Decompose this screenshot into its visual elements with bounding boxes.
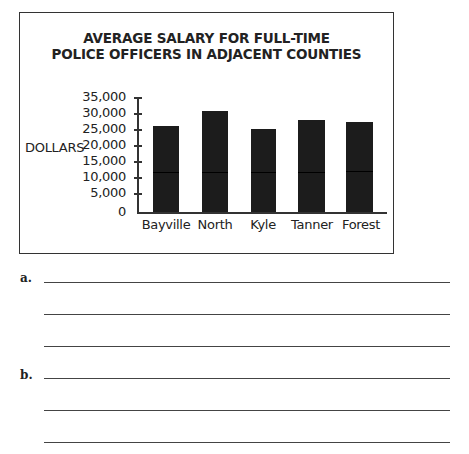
answer-line-b-2[interactable] — [44, 410, 450, 411]
y-tick-label: 0 — [66, 204, 126, 219]
y-tick-label: 5,000 — [66, 185, 126, 200]
answer-line-a-2[interactable] — [44, 314, 450, 315]
y-tick — [134, 145, 142, 147]
y-tick — [134, 97, 142, 99]
chart-title-line-2: POLICE OFFICERS IN ADJACENT COUNTIES — [20, 46, 393, 62]
bar-bayville — [153, 126, 179, 212]
y-tick — [134, 193, 142, 195]
bar-kyle — [251, 129, 276, 212]
answer-line-a-3[interactable] — [44, 346, 450, 347]
y-tick — [134, 129, 142, 131]
y-tick — [134, 113, 142, 115]
y-tick — [134, 177, 142, 179]
y-tick-label: 30,000 — [66, 105, 126, 120]
bar-north — [202, 111, 228, 212]
question-a-label: a. — [20, 271, 32, 285]
x-tick-label-forest: Forest — [331, 217, 391, 232]
x-axis — [137, 212, 387, 214]
chart-title-line-1: AVERAGE SALARY FOR FULL-TIME — [20, 30, 393, 46]
y-tick-label: 20,000 — [66, 137, 126, 152]
question-b-label: b. — [20, 368, 33, 382]
chart-title: AVERAGE SALARY FOR FULL-TIME POLICE OFFI… — [20, 30, 393, 62]
y-tick-label: 10,000 — [66, 169, 126, 184]
answer-line-a-1[interactable] — [44, 282, 450, 283]
y-tick-label: 35,000 — [66, 89, 126, 104]
answer-line-b-1[interactable] — [44, 378, 450, 379]
y-tick-label: 25,000 — [66, 121, 126, 136]
bar-tanner — [298, 120, 325, 212]
y-tick — [134, 161, 142, 163]
bar-forest — [346, 122, 373, 212]
y-tick-label: 15,000 — [66, 153, 126, 168]
answer-line-b-3[interactable] — [44, 442, 450, 443]
